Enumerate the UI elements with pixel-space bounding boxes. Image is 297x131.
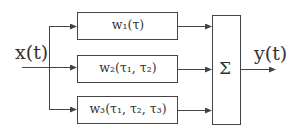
summer-sigma-icon: Σ — [219, 58, 231, 78]
output-label: y(t) — [254, 42, 287, 64]
block-w3-label: w₃(τ₁, τ₂, τ₃) — [78, 101, 178, 116]
input-label: x(t) — [15, 41, 48, 63]
block-w2-label: w₂(τ₁, τ₂) — [78, 60, 178, 75]
block-w1-label: w₁(τ) — [78, 17, 178, 32]
